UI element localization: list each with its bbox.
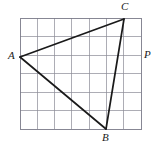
- figure-canvas: [0, 0, 161, 150]
- vertex-label-b: B: [102, 132, 109, 143]
- edge-CB: [106, 19, 124, 129]
- edge-BA: [20, 57, 106, 129]
- grid-horizontal-lines: [20, 37, 141, 111]
- geometry-figure: A B C P: [0, 0, 161, 150]
- vertex-label-c: C: [121, 1, 128, 12]
- point-label-p: P: [144, 49, 151, 60]
- vertex-label-a: A: [8, 50, 15, 61]
